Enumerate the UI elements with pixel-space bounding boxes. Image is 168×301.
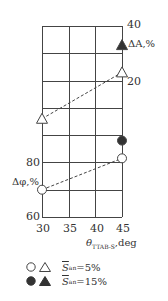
legend-s-symbol: S [62, 262, 69, 273]
legend-open-markers-icon [26, 261, 56, 273]
legend-item-5pct: San=5% [26, 260, 101, 274]
legend-subscript: an [69, 264, 76, 271]
x-tick-40: 40 [90, 223, 104, 234]
left-axis-tick-80: 80 [26, 157, 40, 168]
right-axis-tick-20: 20 [127, 76, 141, 87]
open-triangle-marker [37, 113, 48, 123]
left-axis-label: Δφ,% [12, 176, 39, 187]
legend-label-15: =15% [76, 276, 107, 287]
right-axis-label: ΔA,% [128, 38, 155, 49]
x-axis-unit: ,deg [115, 237, 137, 248]
filled-circle-marker [118, 136, 127, 145]
right-axis-tick-40: 40 [127, 19, 141, 30]
legend-label-5: =5% [76, 262, 100, 273]
x-axis-subscript: TTAB-S [92, 243, 115, 250]
legend-filled-markers-icon [26, 275, 56, 287]
open-triangle-marker [117, 67, 128, 77]
x-tick-30: 30 [36, 223, 50, 234]
x-tick-35: 35 [63, 223, 77, 234]
left-axis-tick-60: 60 [26, 211, 40, 222]
filled-triangle-marker [117, 40, 128, 50]
series-lines [42, 72, 122, 189]
open-circle-marker [118, 154, 127, 163]
x-tick-45: 45 [116, 223, 130, 234]
legend-item-15pct: San=15% [26, 274, 107, 288]
series-line [42, 72, 122, 118]
legend-subscript: an [69, 278, 76, 285]
x-axis-label: θTTAB-S,deg [86, 237, 137, 252]
grid [42, 26, 123, 218]
data-markers [37, 40, 128, 195]
series-line [42, 158, 122, 189]
legend-s-symbol: S [62, 276, 69, 287]
